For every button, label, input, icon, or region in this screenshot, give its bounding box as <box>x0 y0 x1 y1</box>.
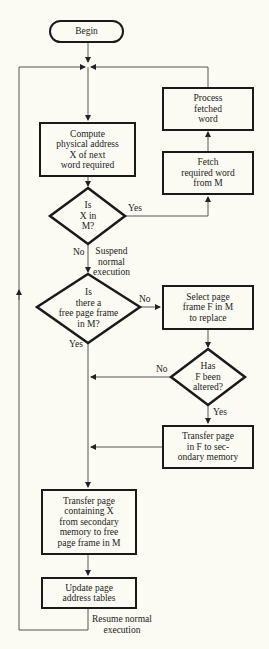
select-frame-box: Select page frame F in M to replace <box>162 285 254 330</box>
compute-address-label: Compute physical address X of next word … <box>56 129 119 171</box>
transfer-out-label: Transfer page in F to sec- ondary memory <box>178 431 238 463</box>
free-frame-no-label: No <box>139 294 151 305</box>
process-word-label: Process fetched word <box>193 93 222 125</box>
decision-f-altered-label: Has F been altered? <box>193 361 223 393</box>
f-altered-yes-label: Yes <box>213 407 227 418</box>
decision-x-in-m-label: Is X in M? <box>80 200 97 232</box>
fetch-word-label: Fetch required word from M <box>181 157 235 189</box>
compute-address-box: Compute physical address X of next word … <box>39 122 136 177</box>
suspend-execution-note: Suspend normal execution <box>93 246 130 278</box>
x-in-m-yes-label: Yes <box>128 203 142 214</box>
decision-x-in-m-text: Is X in M? <box>50 191 126 241</box>
decision-free-frame-label: Is there a free page frame in M? <box>59 287 119 329</box>
transfer-in-box: Transfer page containing X from secondar… <box>41 489 137 555</box>
decision-f-altered-text: Has F been altered? <box>171 352 245 402</box>
decision-free-frame-text: Is there a free page frame in M? <box>37 280 140 336</box>
fetch-word-box: Fetch required word from M <box>162 151 254 195</box>
begin-label: Begin <box>75 26 98 37</box>
transfer-in-label: Transfer page containing X from secondar… <box>57 496 120 549</box>
update-tables-label: Update page address tables <box>62 583 115 604</box>
process-word-box: Process fetched word <box>162 87 254 131</box>
update-tables-box: Update page address tables <box>41 577 137 609</box>
f-altered-no-label: No <box>156 364 168 375</box>
transfer-out-box: Transfer page in F to sec- ondary memory <box>162 425 254 469</box>
resume-execution-note: Resume normal execution <box>92 614 152 635</box>
x-in-m-no-label: No <box>73 247 85 258</box>
free-frame-yes-label: Yes <box>69 339 83 350</box>
begin-terminal: Begin <box>49 20 124 43</box>
select-frame-label: Select page frame F in M to replace <box>183 292 233 324</box>
